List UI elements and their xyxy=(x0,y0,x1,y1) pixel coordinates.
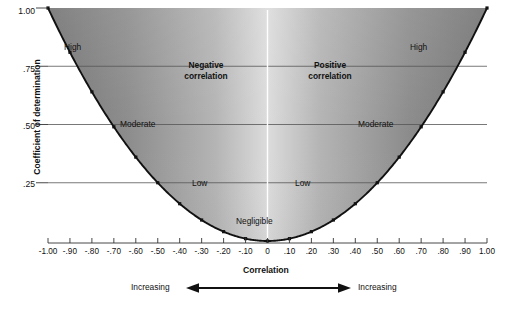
label-high-left: High xyxy=(64,42,81,52)
negative-correlation-line-1: Negative xyxy=(189,60,224,70)
x-axis-title: Correlation xyxy=(243,265,289,275)
label-negligible: Negligible xyxy=(236,216,273,226)
y-tick-label: .75 xyxy=(1,64,35,74)
chart-figure: Coefficient of determination 1.00 .75 .5… xyxy=(0,0,509,309)
label-negative-correlation: Negativecorrelation xyxy=(158,60,254,82)
label-low-right: Low xyxy=(295,178,310,188)
label-moderate-right: Moderate xyxy=(358,119,393,129)
positive-correlation-line-1: Positive xyxy=(314,60,346,70)
correlation-direction-arrow xyxy=(186,283,351,293)
label-high-right: High xyxy=(410,42,427,52)
data-point-marker xyxy=(332,218,335,221)
positive-correlation-line-2: correlation xyxy=(308,71,351,81)
data-point-marker xyxy=(200,218,203,221)
negative-correlation-line-2: correlation xyxy=(184,71,227,81)
y-tick-label: .25 xyxy=(1,179,35,189)
label-low-left: Low xyxy=(192,178,207,188)
y-axis-title: Coefficient of determination xyxy=(32,32,42,202)
data-point-marker xyxy=(442,90,445,93)
data-point-marker xyxy=(112,125,115,128)
data-point-marker xyxy=(485,6,488,9)
data-point-marker xyxy=(376,181,379,184)
data-point-marker xyxy=(463,51,466,54)
data-point-marker xyxy=(398,156,401,159)
x-tick-label: 1.00 xyxy=(470,247,504,256)
x-axis xyxy=(48,238,487,243)
increasing-left-label: Increasing xyxy=(131,282,170,292)
label-positive-correlation: Positivecorrelation xyxy=(282,60,378,82)
data-point-marker xyxy=(310,230,313,233)
y-tick-label: 1.00 xyxy=(1,6,35,16)
data-point-marker xyxy=(90,90,93,93)
data-point-marker xyxy=(222,230,225,233)
data-point-marker xyxy=(178,202,181,205)
data-point-marker xyxy=(354,202,357,205)
increasing-right-label: Increasing xyxy=(358,282,397,292)
data-point-marker xyxy=(420,125,423,128)
label-moderate-left: Moderate xyxy=(120,119,155,129)
data-point-marker xyxy=(134,156,137,159)
data-point-marker xyxy=(156,181,159,184)
y-tick-label: .50 xyxy=(1,121,35,131)
